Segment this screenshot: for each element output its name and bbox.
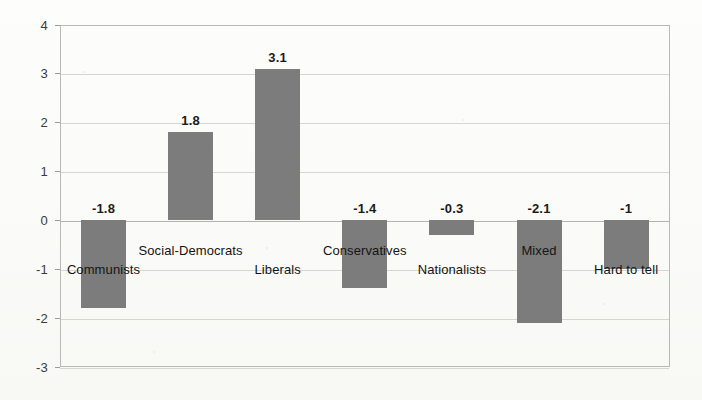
y-axis-tick-label: 4 bbox=[0, 18, 48, 33]
y-axis-tick-label: 1 bbox=[0, 164, 48, 179]
y-axis-tick-mark bbox=[55, 269, 60, 270]
y-axis-tick-label: -3 bbox=[0, 360, 48, 375]
gridline bbox=[60, 319, 669, 320]
y-axis-tick-mark bbox=[55, 220, 60, 221]
category-label: Social-Democrats bbox=[139, 243, 243, 258]
y-axis-tick-mark bbox=[55, 25, 60, 26]
bar-value-label: 1.8 bbox=[181, 113, 200, 128]
category-label: Liberals bbox=[255, 262, 301, 277]
gridline bbox=[60, 172, 669, 173]
chart-page: 43210-1-2-3 -1.8Communists1.8Social-Demo… bbox=[0, 0, 702, 400]
bar-value-label: 3.1 bbox=[268, 50, 287, 65]
bar bbox=[517, 220, 562, 323]
y-axis-tick-label: 2 bbox=[0, 115, 48, 130]
y-axis-line bbox=[60, 25, 61, 367]
y-axis-tick-mark bbox=[55, 122, 60, 123]
category-label: Conservatives bbox=[323, 243, 407, 258]
y-axis-tick-mark bbox=[55, 367, 60, 368]
y-axis-tick-label: -1 bbox=[0, 262, 48, 277]
y-axis-tick-mark bbox=[55, 171, 60, 172]
category-label: Mixed bbox=[521, 243, 556, 258]
gridline bbox=[60, 123, 669, 124]
category-label: Hard to tell bbox=[594, 262, 658, 277]
y-axis-tick-label: 3 bbox=[0, 66, 48, 81]
y-axis-tick-label: 0 bbox=[0, 213, 48, 228]
bar-value-label: -1.4 bbox=[353, 201, 376, 216]
bar-value-label: -1 bbox=[620, 201, 632, 216]
y-axis-tick-mark bbox=[55, 73, 60, 74]
bar bbox=[168, 132, 213, 220]
bar-chart-plot-area bbox=[60, 25, 670, 367]
gridline bbox=[60, 74, 669, 75]
bar-value-label: -2.1 bbox=[527, 201, 550, 216]
category-label: Communists bbox=[67, 262, 140, 277]
bar bbox=[255, 69, 300, 220]
bar-value-label: -1.8 bbox=[92, 201, 115, 216]
bar-value-label: -0.3 bbox=[440, 201, 463, 216]
gridline bbox=[60, 368, 669, 369]
y-axis-tick-label: -2 bbox=[0, 311, 48, 326]
bar bbox=[429, 220, 474, 235]
y-axis-tick-mark bbox=[55, 318, 60, 319]
category-label: Nationalists bbox=[418, 262, 486, 277]
